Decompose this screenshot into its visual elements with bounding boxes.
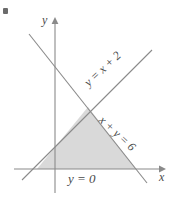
graph-figure: y x y = 0 y = x + 2 x + y = 6: [0, 0, 175, 197]
x-axis-label: x: [159, 171, 164, 183]
y-axis-arrowhead: [52, 17, 59, 24]
graph-canvas: [0, 0, 175, 197]
constraint-label-y-equals-0: y = 0: [68, 172, 96, 185]
y-axis-label: y: [42, 14, 47, 26]
